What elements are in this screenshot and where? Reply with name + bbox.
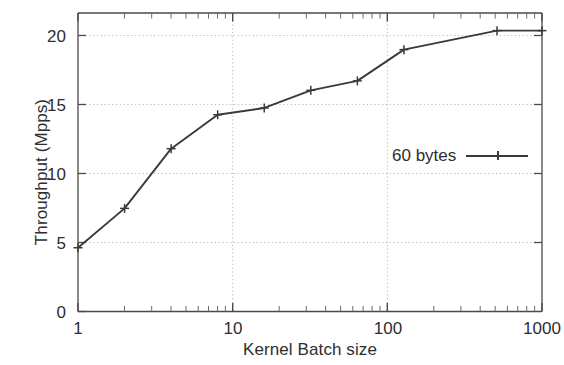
horizontal-gridlines — [78, 36, 542, 243]
throughput-vs-batch-size-chart: Throughput (Mpps) Kernel Batch size 20 1… — [0, 0, 564, 365]
legend-label-60-bytes: 60 bytes — [392, 146, 456, 166]
plot-area — [0, 0, 564, 365]
legend: 60 bytes — [392, 146, 528, 166]
legend-line-sample-icon — [466, 150, 528, 162]
data-line-60-bytes — [78, 31, 542, 248]
vertical-gridlines — [233, 13, 388, 312]
data-markers-60-bytes — [74, 26, 547, 252]
